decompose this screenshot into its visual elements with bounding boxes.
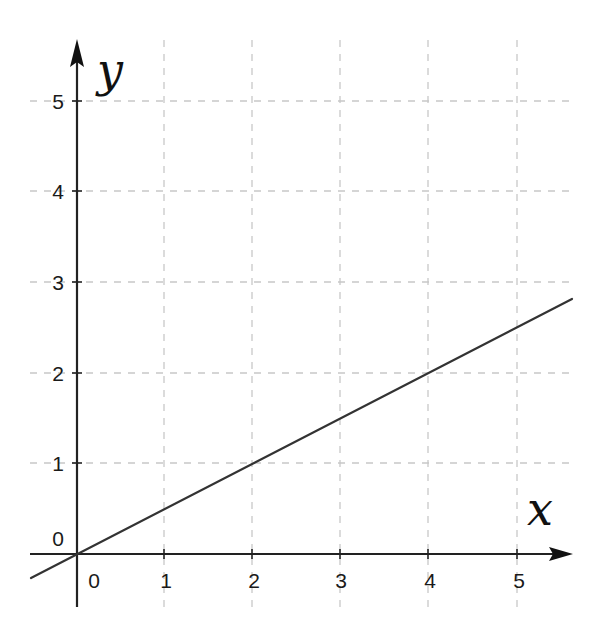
y-tick-labels: 0 1 2 3 4 5 [52, 90, 64, 550]
x-tick-label: 2 [248, 569, 260, 592]
horizontal-grid-lines [30, 101, 572, 463]
x-tick-label: 5 [513, 569, 525, 592]
grid [30, 40, 572, 607]
x-tick-label: 4 [424, 569, 436, 592]
y-tick-label: 2 [52, 362, 64, 385]
y-axis [70, 39, 84, 607]
data-line [31, 299, 572, 578]
y-origin-label: 0 [52, 527, 64, 550]
y-tick-label: 1 [52, 452, 64, 475]
y-axis-label: y [95, 43, 124, 97]
y-tick-label: 3 [52, 271, 64, 294]
x-axis [30, 547, 573, 561]
x-origin-label: 0 [88, 569, 100, 592]
line-chart: 0 1 2 3 4 5 0 1 2 3 4 5 x y [0, 0, 605, 634]
x-axis-label: x [527, 482, 553, 536]
y-tick-label: 5 [52, 90, 64, 113]
x-tick-labels: 0 1 2 3 4 5 [88, 569, 525, 592]
y-tick-label: 4 [52, 180, 64, 203]
x-tick-label: 1 [160, 569, 172, 592]
x-tick-label: 3 [335, 569, 347, 592]
vertical-grid-lines [164, 40, 517, 607]
